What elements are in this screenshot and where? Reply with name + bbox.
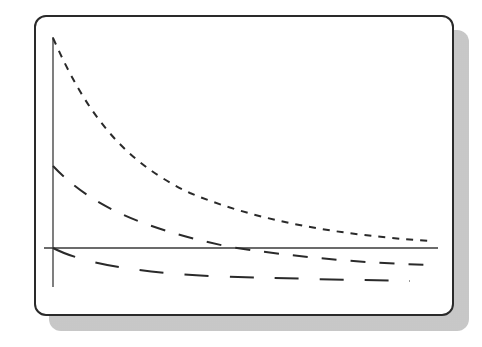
plot-area (0, 0, 482, 347)
medium-dash-curve (53, 166, 428, 265)
long-dash-curve (53, 248, 410, 281)
short-dash-curve (53, 38, 430, 241)
